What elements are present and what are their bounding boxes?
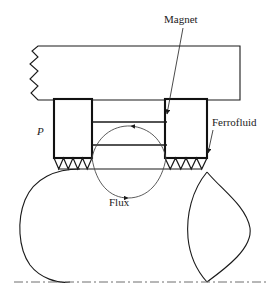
flux-path-upper	[131, 126, 166, 158]
housing-block-outline	[30, 46, 240, 100]
flux-path-upper-tail	[92, 126, 131, 158]
magnet-label: Magnet	[164, 13, 198, 25]
rotor-lens-right-right-arc	[207, 172, 250, 282]
ferrofluid-teeth-right	[165, 158, 207, 169]
housing-block-group	[30, 46, 240, 100]
rotor-body-left	[20, 169, 80, 282]
ferrofluid-seal-diagram: Magnet Ferrofluid Flux P	[0, 0, 278, 295]
flux-label: Flux	[109, 196, 130, 208]
sawtooth-left	[54, 158, 92, 169]
flux-path-lower	[92, 158, 128, 198]
ferrofluid-leader-line	[208, 130, 213, 153]
rotor-body-left-group	[20, 169, 80, 282]
flux-paths-group	[92, 126, 166, 198]
pole-label: P	[36, 125, 44, 137]
pole-piece-left	[54, 99, 92, 158]
ferrofluid-teeth-left	[54, 158, 92, 169]
pole-pieces-group	[54, 99, 207, 158]
ferrofluid-label: Ferrofluid	[212, 116, 257, 128]
flux-path-lower-tail	[128, 158, 166, 198]
sawtooth-right	[165, 158, 207, 169]
figure-canvas: Magnet Ferrofluid Flux P	[0, 0, 278, 295]
pole-piece-right	[165, 99, 207, 158]
rotor-lens-right-group	[188, 172, 251, 282]
magnet-gap-band	[92, 122, 167, 145]
rotor-lens-right-left-arc	[188, 172, 207, 282]
